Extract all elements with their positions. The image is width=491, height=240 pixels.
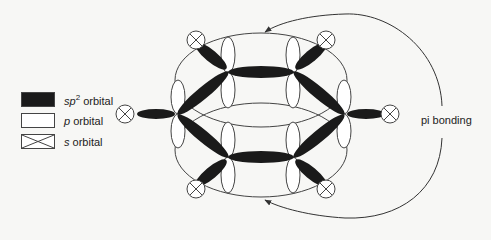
sp2-orbitals bbox=[137, 39, 385, 191]
legend-label: sp2 orbital bbox=[64, 93, 113, 107]
legend-item-sp2: sp2 orbital bbox=[21, 89, 113, 110]
sp2-swatch-icon bbox=[21, 92, 55, 107]
pi-bonding-label: pi bonding bbox=[421, 114, 472, 126]
legend-label: s orbital bbox=[64, 136, 103, 148]
legend-item-p: p orbital bbox=[21, 110, 113, 131]
s-swatch-icon bbox=[21, 134, 55, 149]
legend-item-s: s orbital bbox=[21, 131, 113, 152]
legend: sp2 orbital p orbital s orbital bbox=[21, 89, 113, 152]
p-orbitals bbox=[171, 37, 351, 193]
p-swatch-icon bbox=[21, 113, 55, 128]
legend-label: p orbital bbox=[64, 115, 103, 127]
